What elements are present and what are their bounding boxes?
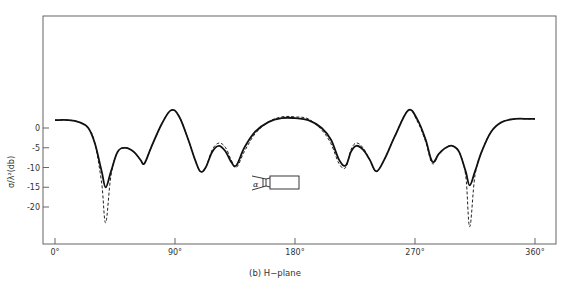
alpha-label: α: [253, 180, 259, 189]
x-tick-label: 360°: [525, 248, 544, 257]
chart-caption: (b) H−plane: [249, 268, 301, 278]
y-axis-ticks: 0-5-10-15-20: [27, 124, 49, 212]
dashed-series-line: [55, 110, 535, 227]
y-tick-label: -10: [27, 164, 40, 173]
rcs-pattern-chart: 0°90°180°270°360° 0-5-10-15-20 α σ/λ²(db…: [0, 0, 566, 281]
y-tick-label: -15: [27, 183, 40, 192]
target-inset-icon: α: [252, 176, 299, 190]
x-tick-label: 90°: [168, 248, 182, 257]
x-tick-label: 180°: [285, 248, 304, 257]
plot-frame: [43, 16, 556, 244]
y-axis-label: σ/λ²(db): [7, 156, 16, 188]
y-tick-label: 0: [35, 124, 40, 133]
x-tick-label: 270°: [405, 248, 424, 257]
y-tick-label: -5: [32, 144, 40, 153]
y-tick-label: -20: [27, 203, 40, 212]
x-tick-label: 0°: [50, 248, 59, 257]
x-axis-ticks: 0°90°180°270°360°: [50, 238, 544, 257]
